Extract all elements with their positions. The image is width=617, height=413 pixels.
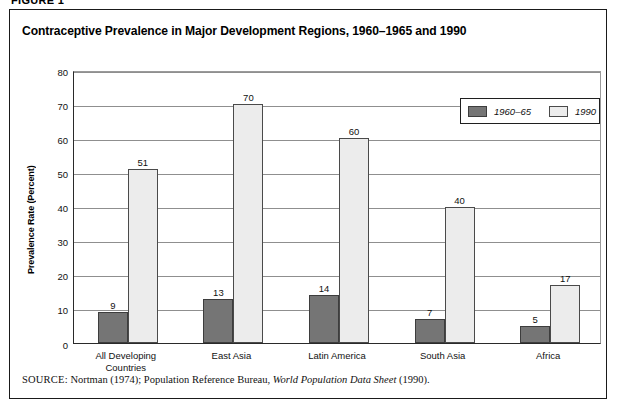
figure-number-label: FIGURE 1	[11, 0, 64, 6]
bar-value-label: 40	[454, 195, 465, 206]
bar-value-label: 5	[533, 314, 538, 325]
x-axis-category-label: East Asia	[171, 350, 291, 362]
bar: 17	[550, 285, 580, 343]
x-axis-category-label: All Developing Countries	[66, 350, 186, 373]
bar: 14	[309, 295, 339, 343]
y-axis-tick-label: 50	[57, 168, 68, 179]
chart-title: Contraceptive Prevalence in Major Develo…	[22, 24, 466, 38]
bar-value-label: 70	[243, 92, 254, 103]
figure-frame: Contraceptive Prevalence in Major Develo…	[9, 9, 607, 399]
bar-value-label: 13	[213, 287, 224, 298]
bar: 13	[203, 299, 233, 343]
y-axis-tick-label: 40	[57, 203, 68, 214]
bar-value-label: 9	[110, 300, 115, 311]
legend-label-1990: 1990	[575, 106, 596, 117]
bar: 70	[233, 104, 263, 343]
source-note: SOURCE: Nortman (1974); Population Refer…	[22, 374, 430, 385]
y-axis-title: Prevalence Rate (Percent)	[24, 150, 38, 290]
legend-swatch-icon-1960-65	[468, 106, 487, 117]
x-axis-category-label: Latin America	[277, 350, 397, 362]
x-axis-category-label: Africa	[488, 350, 608, 362]
gridline: 0	[74, 345, 600, 346]
source-kicker: SOURCE:	[22, 374, 68, 385]
chart-legend: 1960–65 1990	[460, 98, 600, 124]
bar-value-label: 7	[427, 307, 432, 318]
bar: 51	[128, 169, 158, 343]
y-axis-tick-label: 20	[57, 271, 68, 282]
bar-value-label: 17	[560, 273, 571, 284]
bar: 5	[520, 326, 550, 343]
legend-swatch-icon-1990	[549, 106, 568, 117]
bar-value-label: 60	[349, 126, 360, 137]
y-axis-tick-label: 80	[57, 66, 68, 77]
legend-label-1960-65: 1960–65	[494, 106, 531, 117]
x-axis-category-label: South Asia	[383, 350, 503, 362]
y-axis-tick-label: 10	[57, 305, 68, 316]
bar: 9	[98, 312, 128, 343]
legend-item-1990: 1990	[549, 106, 596, 117]
legend-item-1960-65: 1960–65	[468, 106, 531, 117]
source-text-after: (1990).	[399, 374, 430, 385]
bar-value-label: 14	[319, 283, 330, 294]
y-axis-tick-label: 30	[57, 237, 68, 248]
source-publication-title: World Population Data Sheet	[273, 374, 397, 385]
bar: 40	[445, 207, 475, 344]
y-axis-tick-label: 70	[57, 100, 68, 111]
y-axis-tick-label: 60	[57, 134, 68, 145]
y-axis-tick-label: 0	[63, 339, 68, 350]
bar: 7	[415, 319, 445, 343]
bar-value-label: 51	[138, 157, 149, 168]
bar: 60	[339, 138, 369, 343]
source-text-before: Nortman (1974); Population Reference Bur…	[70, 374, 270, 385]
